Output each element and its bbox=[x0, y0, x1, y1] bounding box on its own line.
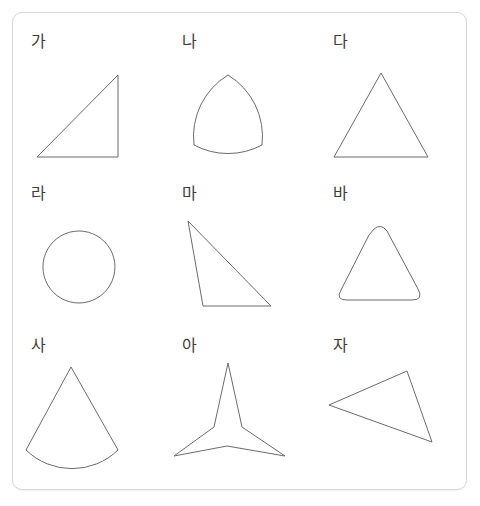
shape-grid: 가나다라마바사아자 bbox=[13, 13, 468, 491]
shape-cell-three-pointed-star[interactable]: 아 bbox=[166, 331, 317, 483]
shape-cell-rotated-scalene-triangle[interactable]: 자 bbox=[317, 331, 468, 483]
isosceles-triangle-shape bbox=[317, 49, 468, 177]
shape-cell-circle[interactable]: 라 bbox=[15, 179, 166, 331]
circle-shape bbox=[15, 201, 166, 329]
reuleaux-triangle-shape bbox=[166, 49, 317, 177]
obtuse-scalene-triangle-shape bbox=[166, 201, 317, 329]
shape-cell-isosceles-triangle[interactable]: 다 bbox=[317, 27, 468, 179]
shape-cell-right-triangle[interactable]: 가 bbox=[15, 27, 166, 179]
shape-cell-obtuse-scalene-triangle[interactable]: 마 bbox=[166, 179, 317, 331]
right-triangle-shape bbox=[15, 49, 166, 177]
shape-cell-reuleaux-triangle[interactable]: 나 bbox=[166, 27, 317, 179]
shape-cell-rounded-triangle[interactable]: 바 bbox=[317, 179, 468, 331]
rotated-scalene-triangle-shape bbox=[317, 353, 468, 481]
three-point-star-shape bbox=[166, 353, 317, 481]
circular-sector-shape bbox=[15, 353, 166, 481]
worksheet-card: 가나다라마바사아자 bbox=[12, 12, 467, 490]
rounded-triangle-shape bbox=[317, 201, 468, 329]
shape-cell-circular-sector-cone[interactable]: 사 bbox=[15, 331, 166, 483]
